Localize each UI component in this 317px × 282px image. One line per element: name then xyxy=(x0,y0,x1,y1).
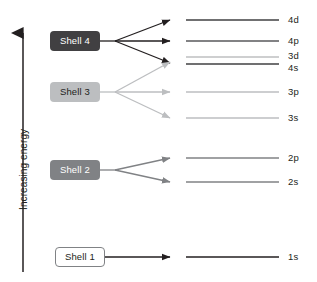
energy-level-diagram: Increasing energy Shell 4 Shell 3 Shell … xyxy=(0,0,317,282)
level-label-4s: 4s xyxy=(288,62,298,73)
shell-2-arrow-group xyxy=(100,158,170,182)
shell-4-label: Shell 4 xyxy=(60,36,90,46)
level-label-4d: 4d xyxy=(288,14,299,25)
shell-box-shell-1[interactable]: Shell 1 xyxy=(55,247,105,267)
shell-3-label: Shell 3 xyxy=(60,87,90,97)
level-label-3p: 3p xyxy=(288,86,299,97)
shell-2-label: Shell 2 xyxy=(60,165,90,175)
shell-1-label: Shell 1 xyxy=(65,252,95,262)
arrow-shell3-to-3s xyxy=(115,92,170,118)
level-label-3d: 3d xyxy=(288,50,299,61)
shell-3-arrow-group xyxy=(100,62,170,118)
axis-label-increasing-energy: Increasing energy xyxy=(18,129,29,210)
arrow-shell2-to-2s xyxy=(115,170,170,182)
level-label-2p: 2p xyxy=(288,152,299,163)
arrow-shell3-to-3d xyxy=(115,62,170,92)
diagram-canvas xyxy=(0,0,317,282)
shell-4-arrow-group xyxy=(100,20,170,63)
arrow-shell2-to-2p xyxy=(115,158,170,170)
shell-box-shell-3[interactable]: Shell 3 xyxy=(50,82,100,102)
level-label-3s: 3s xyxy=(288,112,298,123)
arrow-shell4-to-4d xyxy=(115,20,170,41)
level-label-2s: 2s xyxy=(288,176,298,187)
level-label-1s: 1s xyxy=(288,251,298,262)
shell-box-shell-4[interactable]: Shell 4 xyxy=(50,31,100,51)
arrow-shell4-to-4s xyxy=(115,41,170,63)
shell-box-shell-2[interactable]: Shell 2 xyxy=(50,160,100,180)
level-label-4p: 4p xyxy=(288,35,299,46)
